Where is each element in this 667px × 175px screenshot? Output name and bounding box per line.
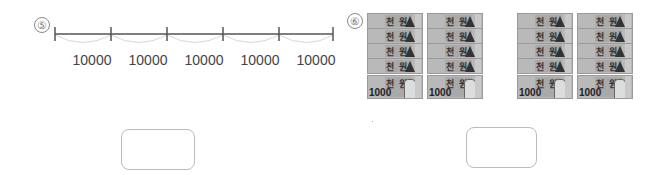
problem-number-6: ⑥ bbox=[347, 13, 363, 29]
portrait-hat-icon bbox=[405, 31, 415, 42]
banknote: 천 원 bbox=[517, 13, 573, 29]
banknote-stack-4: 천 원 천 원 천 원 천 원 천 원1000 bbox=[577, 13, 633, 101]
banknote: 천 원 bbox=[517, 28, 573, 44]
answer-box-6[interactable] bbox=[466, 127, 537, 168]
banknote: 천 원 bbox=[367, 43, 423, 59]
portrait-hat-icon bbox=[555, 16, 565, 27]
banknote: 천 원 bbox=[427, 43, 483, 59]
portrait-hat-icon bbox=[615, 16, 625, 27]
portrait-hat-icon bbox=[555, 46, 565, 57]
portrait-hat-icon bbox=[615, 61, 625, 72]
banknote-stack-2: 천 원 천 원 천 원 천 원 천 원1000 bbox=[427, 13, 483, 101]
banknote: 천 원 bbox=[517, 43, 573, 59]
portrait-hat-icon bbox=[465, 16, 475, 27]
portrait-hat-icon bbox=[405, 16, 415, 27]
portrait-hat-icon bbox=[465, 31, 475, 42]
portrait-hat-icon bbox=[615, 31, 625, 42]
portrait-hat-icon bbox=[405, 61, 415, 72]
banknote-stack-3: 천 원 천 원 천 원 천 원 천 원1000 bbox=[517, 13, 573, 101]
banknote: 천 원 bbox=[367, 58, 423, 74]
segment-label-4: 10000 bbox=[232, 52, 288, 68]
banknote: 천 원 bbox=[517, 58, 573, 74]
portrait-hat-icon bbox=[555, 61, 565, 72]
segment-label-3: 10000 bbox=[176, 52, 232, 68]
banknote: 천 원 bbox=[577, 58, 633, 74]
stray-dot bbox=[372, 121, 373, 122]
banknote-stack-1: 천 원 천 원 천 원 천 원 천 원1000 bbox=[367, 13, 423, 101]
banknote: 천 원 bbox=[427, 58, 483, 74]
segment-label-1: 10000 bbox=[64, 52, 120, 68]
segment-label-5: 10000 bbox=[288, 52, 344, 68]
portrait-hat-icon bbox=[465, 61, 475, 72]
portrait-hat-icon bbox=[555, 31, 565, 42]
banknote: 천 원 bbox=[367, 13, 423, 29]
banknote: 천 원 bbox=[427, 13, 483, 29]
banknote: 천 원 bbox=[577, 28, 633, 44]
number-line bbox=[54, 22, 334, 52]
banknote: 천 원 bbox=[427, 28, 483, 44]
problem-number-5: ⑤ bbox=[34, 17, 50, 33]
portrait-hat-icon bbox=[405, 46, 415, 57]
answer-box-5[interactable] bbox=[121, 129, 195, 170]
banknote: 천 원 bbox=[577, 43, 633, 59]
segment-label-2: 10000 bbox=[120, 52, 176, 68]
portrait-hat-icon bbox=[465, 46, 475, 57]
banknote: 천 원 bbox=[367, 28, 423, 44]
banknote: 천 원1000 bbox=[367, 75, 423, 99]
portrait-hat-icon bbox=[615, 46, 625, 57]
banknote: 천 원 bbox=[577, 13, 633, 29]
banknote: 천 원1000 bbox=[427, 75, 483, 99]
banknote: 천 원1000 bbox=[577, 75, 633, 99]
banknote: 천 원1000 bbox=[517, 75, 573, 99]
arcs bbox=[55, 35, 333, 43]
